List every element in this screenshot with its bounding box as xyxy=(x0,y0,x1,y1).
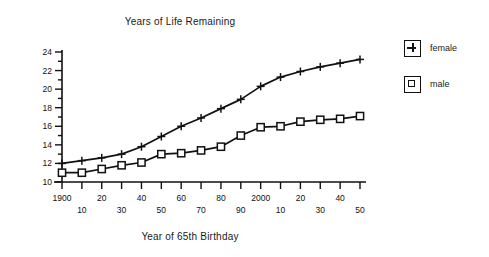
x-tick-label: 20 xyxy=(296,193,306,203)
data-point-male xyxy=(217,143,224,150)
plot-area: 1012141618202224190010203040506070809020… xyxy=(0,0,400,220)
y-tick-label: 12 xyxy=(43,158,53,168)
data-point-male xyxy=(138,159,145,166)
data-point-female xyxy=(98,154,106,162)
x-tick-label: 80 xyxy=(216,193,226,203)
y-tick-label: 24 xyxy=(43,47,53,57)
legend-label-female: female xyxy=(430,43,457,53)
data-point-male xyxy=(337,115,344,122)
data-point-male xyxy=(317,116,324,123)
x-tick-label: 2000 xyxy=(251,193,270,203)
y-tick-label: 10 xyxy=(43,177,53,187)
female-marker-icon xyxy=(404,40,421,57)
x-tick-label: 30 xyxy=(117,205,127,215)
data-point-female xyxy=(58,159,66,167)
y-tick-label: 22 xyxy=(43,66,53,76)
x-tick-label: 40 xyxy=(335,193,345,203)
data-point-female xyxy=(157,133,165,141)
data-point-male xyxy=(58,169,65,176)
data-point-male xyxy=(277,123,284,130)
data-point-female xyxy=(217,105,225,113)
x-tick-label: 40 xyxy=(137,193,147,203)
data-point-female xyxy=(137,143,145,151)
male-marker-icon xyxy=(404,76,421,93)
x-tick-label: 10 xyxy=(77,205,87,215)
x-tick-label: 20 xyxy=(97,193,107,203)
y-tick-label: 18 xyxy=(43,103,53,113)
data-point-male xyxy=(257,124,264,131)
x-tick-label: 1900 xyxy=(53,193,72,203)
data-point-female xyxy=(118,150,126,158)
data-point-male xyxy=(197,147,204,154)
y-tick-label: 16 xyxy=(43,121,53,131)
x-tick-label: 10 xyxy=(276,205,286,215)
legend-item-male: male xyxy=(404,74,489,94)
data-point-female xyxy=(197,114,205,122)
series-line-male xyxy=(62,116,360,173)
data-point-female xyxy=(356,55,364,63)
data-point-male xyxy=(78,169,85,176)
data-point-female xyxy=(296,68,304,76)
chart-container: Years of Life Remaining 1012141618202224… xyxy=(0,0,489,257)
data-point-male xyxy=(297,118,304,125)
data-point-female xyxy=(336,59,344,67)
x-tick-label: 30 xyxy=(316,205,326,215)
x-axis-label: Year of 65th Birthday xyxy=(0,231,380,242)
chart-legend: female male xyxy=(404,38,489,110)
data-point-female xyxy=(78,157,86,165)
y-tick-label: 14 xyxy=(43,140,53,150)
data-point-male xyxy=(98,165,105,172)
y-tick-label: 20 xyxy=(43,84,53,94)
data-point-female xyxy=(277,73,285,81)
x-tick-label: 70 xyxy=(196,205,206,215)
legend-label-male: male xyxy=(430,79,450,89)
x-tick-label: 90 xyxy=(236,205,246,215)
data-point-male xyxy=(237,132,244,139)
x-tick-label: 50 xyxy=(157,205,167,215)
data-point-male xyxy=(158,151,165,158)
x-tick-label: 50 xyxy=(355,205,365,215)
data-point-male xyxy=(356,112,363,119)
legend-item-female: female xyxy=(404,38,489,58)
data-point-female xyxy=(316,63,324,71)
data-point-male xyxy=(178,150,185,157)
data-point-female xyxy=(177,122,185,130)
data-point-male xyxy=(118,162,125,169)
x-tick-label: 60 xyxy=(176,193,186,203)
